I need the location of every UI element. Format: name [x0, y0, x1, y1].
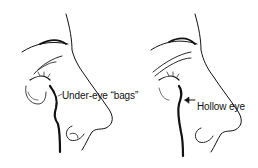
profile-panel-hollow: Hollow eye [129, 0, 258, 168]
left-arrow-icon [185, 97, 189, 103]
hollow-eye-label: Hollow eye [197, 101, 245, 112]
face-profile-illustration [129, 0, 258, 168]
face-profile-illustration [0, 0, 129, 168]
under-eye-bags-label: Under-eye “bags” [62, 90, 138, 101]
profile-panel-bags: Under-eye “bags” [0, 0, 129, 168]
